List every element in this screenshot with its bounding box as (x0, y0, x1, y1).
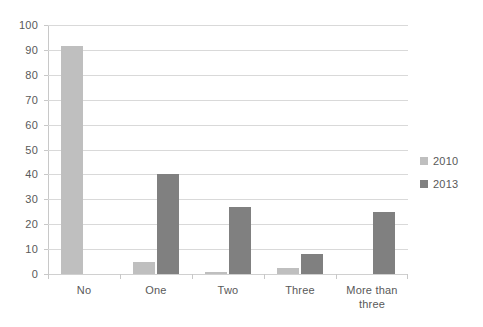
category-band (48, 25, 120, 274)
x-axis-tick (264, 274, 265, 279)
bar-group (336, 25, 408, 274)
x-axis-label: One (120, 283, 192, 297)
bar-2010 (61, 46, 83, 274)
bar-chart: 0102030405060708090100 20102013 NoOneTwo… (0, 0, 483, 327)
x-axis-tick (192, 274, 193, 279)
category-band (192, 25, 264, 274)
gridline (48, 274, 408, 275)
plot-area (48, 25, 408, 274)
bar-2010 (205, 272, 227, 274)
y-axis-tick-label: 10 (25, 243, 38, 255)
legend-label: 2010 (433, 155, 458, 167)
legend-item-2013[interactable]: 2013 (420, 172, 480, 195)
y-axis-tick-label: 0 (32, 268, 38, 280)
x-axis-tick (407, 274, 408, 279)
bar-group (264, 25, 336, 274)
legend-label: 2013 (433, 178, 458, 190)
bar-2010 (277, 268, 299, 274)
legend-swatch-icon (420, 157, 428, 165)
x-axis-label: Two (192, 283, 264, 297)
bar-2013 (373, 212, 395, 274)
y-axis-tick-label: 90 (25, 44, 38, 56)
legend-swatch-icon (420, 180, 428, 188)
y-axis-tick-label: 60 (25, 119, 38, 131)
category-band (336, 25, 408, 274)
legend-item-2010[interactable]: 2010 (420, 149, 480, 172)
y-axis: 0102030405060708090100 (0, 25, 48, 274)
y-axis-tick-label: 50 (25, 144, 38, 156)
bar-2013 (229, 207, 251, 274)
category-band (264, 25, 336, 274)
category-band (120, 25, 192, 274)
y-axis-tick-label: 70 (25, 94, 38, 106)
y-axis-tick-label: 80 (25, 69, 38, 81)
x-axis-tick (48, 274, 49, 279)
chart-legend: 20102013 (420, 149, 480, 195)
x-axis-label: More than three (336, 283, 408, 311)
y-axis-tick-label: 40 (25, 168, 38, 180)
x-axis-tick (336, 274, 337, 279)
x-axis-label: Three (264, 283, 336, 297)
bar-group (192, 25, 264, 274)
bar-2013 (301, 254, 323, 274)
x-axis-label: No (48, 283, 120, 297)
bar-2013 (157, 174, 179, 274)
y-axis-tick-label: 20 (25, 218, 38, 230)
y-axis-tick-label: 100 (19, 19, 38, 31)
bar-2010 (133, 262, 155, 274)
x-axis-tick (120, 274, 121, 279)
bar-group (48, 25, 120, 274)
bar-group (120, 25, 192, 274)
y-axis-tick-label: 30 (25, 193, 38, 205)
